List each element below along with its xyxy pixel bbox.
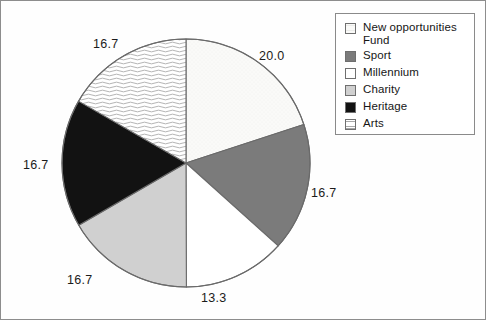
slice-value-label: 13.3: [201, 291, 227, 305]
legend-swatch: [345, 23, 356, 34]
legend-label: Heritage: [363, 100, 407, 113]
legend-label: Charity: [363, 83, 400, 96]
legend-swatch: [345, 68, 356, 79]
legend-label: Millennium: [363, 66, 419, 79]
legend-item[interactable]: New opportunitiesFund: [345, 21, 470, 47]
legend-swatch: [345, 51, 356, 62]
chart-frame: 20.016.713.316.716.716.7 New opportuniti…: [0, 0, 486, 320]
slice-value-label: 16.7: [23, 158, 49, 172]
legend-label: Sport: [363, 49, 391, 62]
legend-swatch: [345, 102, 356, 113]
legend-item[interactable]: Arts: [345, 117, 470, 132]
pie-slices-group: [62, 39, 310, 287]
legend-label: New opportunitiesFund: [363, 21, 457, 47]
slice-value-label: 16.7: [93, 37, 119, 51]
chart-legend: New opportunitiesFundSportMillenniumChar…: [335, 13, 475, 135]
legend-item-list: New opportunitiesFundSportMillenniumChar…: [345, 21, 470, 134]
legend-item[interactable]: Sport: [345, 49, 470, 64]
legend-swatch: [345, 85, 356, 96]
legend-item[interactable]: Millennium: [345, 66, 470, 81]
legend-item[interactable]: Heritage: [345, 100, 470, 115]
legend-item[interactable]: Charity: [345, 83, 470, 98]
slice-value-label: 16.7: [67, 273, 93, 287]
slice-value-label: 20.0: [259, 49, 285, 63]
legend-label-line2: Fund: [363, 34, 457, 47]
legend-label: Arts: [363, 117, 384, 130]
legend-swatch: [345, 119, 356, 130]
slice-value-label: 16.7: [311, 186, 337, 200]
